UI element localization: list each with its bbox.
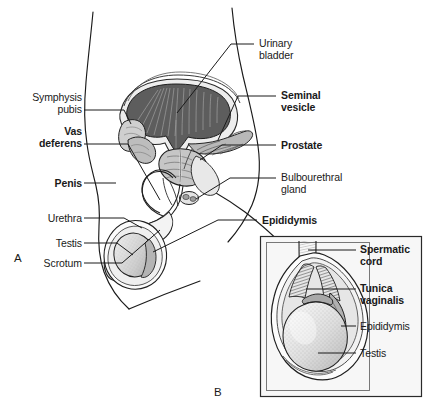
label-bulbourethral-gland: Bulbourethralgland	[281, 172, 342, 195]
label-epididymis: Epididymis	[262, 215, 317, 227]
label-testis: Testis	[56, 238, 82, 250]
label-symphysis-pubis: Symphysispubis	[32, 92, 82, 115]
label-urethra: Urethra	[48, 213, 82, 225]
anatomy-figure-page: Symphysispubis Vasdeferens Penis Urethra…	[0, 0, 425, 404]
label-scrotum: Scrotum	[44, 258, 82, 270]
label-urinary-bladder: Urinarybladder	[259, 38, 293, 61]
label-prostate: Prostate	[281, 140, 322, 152]
panel-letter-a: A	[14, 252, 22, 264]
label-inset-epididymis: Epididymis	[360, 321, 410, 333]
label-seminal-vesicle: Seminalvesicle	[281, 90, 321, 113]
panel-letter-b: B	[214, 386, 222, 398]
label-penis: Penis	[54, 178, 82, 190]
label-inset-testis: Testis	[360, 348, 386, 360]
label-spermatic-cord: Spermaticcord	[360, 244, 410, 267]
label-vas-deferens: Vasdeferens	[39, 126, 82, 149]
label-tunica-vaginalis: Tunicavaginalis	[360, 283, 404, 306]
figure-canvas	[0, 0, 425, 404]
